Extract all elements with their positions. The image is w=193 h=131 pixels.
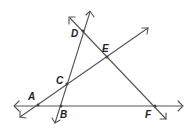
point-f: [154, 105, 157, 108]
point-d: [82, 30, 85, 33]
point-a: [37, 104, 40, 107]
label-e: E: [102, 43, 109, 54]
line-def: [70, 18, 166, 119]
line-ace: [20, 28, 148, 117]
geometry-diagram: A B C D E F: [0, 0, 193, 131]
label-b: B: [60, 109, 67, 120]
label-c: C: [56, 75, 64, 86]
arrowhead-icon: [86, 11, 94, 17]
label-f: F: [145, 109, 152, 120]
point-b: [60, 105, 63, 108]
point-e: [106, 56, 109, 59]
point-c: [66, 83, 69, 86]
label-a: A: [27, 91, 35, 102]
label-d: D: [71, 28, 78, 39]
